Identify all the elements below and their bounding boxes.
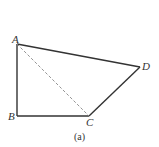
- edge-cd: [89, 67, 140, 116]
- figure-caption: (a): [74, 131, 85, 143]
- label-b: B: [8, 110, 15, 122]
- label-a: A: [11, 33, 19, 45]
- quadrilateral-diagram: A B C D (a): [0, 0, 159, 147]
- edge-da: [17, 44, 140, 67]
- label-c: C: [86, 116, 94, 128]
- label-d: D: [141, 60, 150, 72]
